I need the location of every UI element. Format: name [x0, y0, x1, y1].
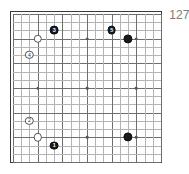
- stone-move-number: 4: [28, 52, 31, 57]
- stone-move-number: 5: [110, 28, 113, 33]
- stone-1-black[interactable]: 1: [50, 141, 59, 150]
- go-board[interactable]: 34521: [10, 11, 163, 164]
- stone-move-number: 2: [28, 118, 31, 123]
- go-stones: 34521: [11, 12, 164, 165]
- stone-move-number: 3: [53, 28, 56, 33]
- stone-4-white[interactable]: 4: [25, 51, 33, 59]
- stone-move-number: 1: [53, 143, 56, 148]
- stone-white-c[interactable]: [33, 133, 41, 141]
- stone-3-black[interactable]: 3: [50, 26, 59, 35]
- go-diagram: 34521 127: [0, 0, 189, 174]
- stone-black-d[interactable]: [123, 133, 132, 142]
- stone-2-white[interactable]: 2: [25, 117, 33, 125]
- stone-5-black[interactable]: 5: [107, 26, 116, 35]
- diagram-number-label: 127: [169, 8, 189, 22]
- stone-white-a[interactable]: [33, 34, 41, 42]
- stone-black-b[interactable]: [123, 34, 132, 43]
